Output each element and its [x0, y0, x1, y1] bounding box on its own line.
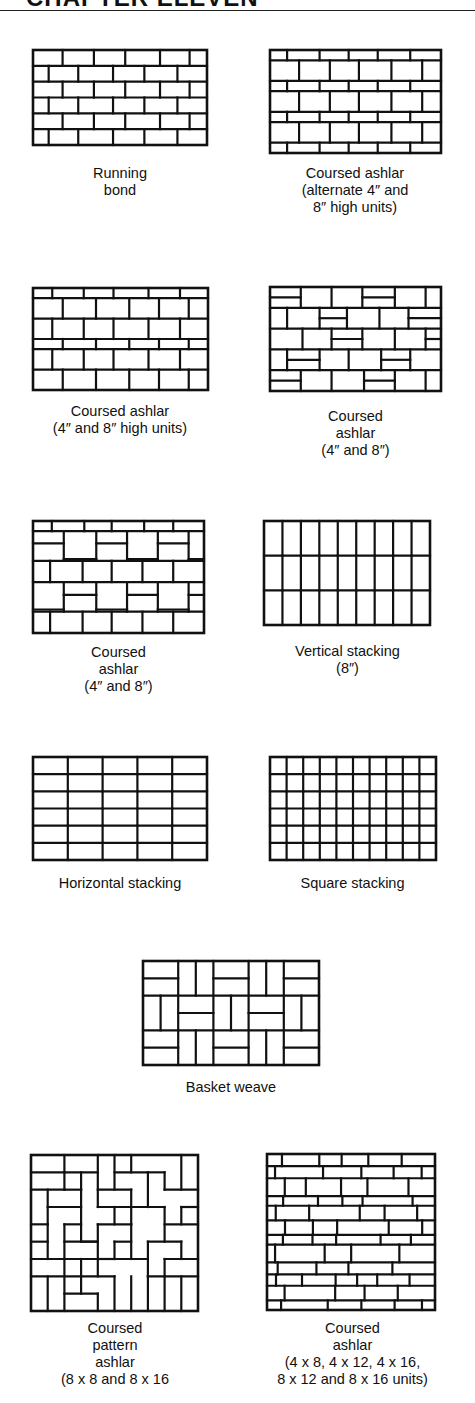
- chapter-title: CHAPTER ELEVEN: [26, 0, 259, 10]
- vertical-stacking-diagram: [264, 521, 430, 625]
- pattern-coursed-pattern-ashlar: [31, 1155, 198, 1311]
- caption-horizontal-stacking: Horizontal stacking: [20, 875, 220, 892]
- pattern-horizontal-stacking: [33, 757, 207, 860]
- caption-running-bond: Running bond: [33, 165, 207, 199]
- pattern-coursed-ashlar-mixed-units: [267, 1154, 435, 1310]
- pattern-coursed-ashlar-4-8-a: [270, 287, 441, 391]
- header-divider: [0, 10, 475, 11]
- square-stacking-diagram: [270, 757, 436, 860]
- pattern-running-bond: [33, 50, 207, 145]
- coursed-ashlar-4-8-a-diagram: [270, 287, 441, 391]
- basket-weave-diagram: [143, 961, 319, 1065]
- coursed-ashlar-mixed-units-diagram: [267, 1154, 435, 1310]
- horizontal-stacking-diagram: [33, 757, 207, 860]
- caption-basket-weave: Basket weave: [143, 1079, 319, 1096]
- running-bond-diagram: [33, 50, 207, 145]
- coursed-ashlar-4-8-b-diagram: [33, 521, 204, 633]
- pattern-coursed-ashlar-4-8-high: [33, 288, 208, 390]
- pattern-vertical-stacking: [264, 521, 430, 625]
- caption-square-stacking: Square stacking: [260, 875, 445, 892]
- pattern-coursed-ashlar-alternate: [270, 50, 441, 153]
- caption-coursed-pattern-ashlar: Coursed pattern ashlar (8 x 8 and 8 x 16: [15, 1320, 215, 1388]
- coursed-ashlar-alternate-diagram: [270, 50, 441, 153]
- caption-coursed-ashlar-4-8-b: Coursed ashlar (4″ and 8″): [33, 644, 204, 695]
- coursed-pattern-ashlar-diagram: [31, 1155, 198, 1311]
- caption-coursed-ashlar-mixed-units: Coursed ashlar (4 x 8, 4 x 12, 4 x 16, 8…: [245, 1320, 460, 1388]
- caption-vertical-stacking: Vertical stacking (8″): [255, 643, 440, 677]
- caption-coursed-ashlar-4-8-high: Coursed ashlar (4″ and 8″ high units): [20, 403, 220, 437]
- pattern-basket-weave: [143, 961, 319, 1065]
- pattern-coursed-ashlar-4-8-b: [33, 521, 204, 633]
- coursed-ashlar-4-8-high-diagram: [33, 288, 208, 390]
- pattern-square-stacking: [270, 757, 436, 860]
- caption-coursed-ashlar-alternate: Coursed ashlar (alternate 4″ and 8″ high…: [255, 165, 455, 216]
- caption-coursed-ashlar-4-8-a: Coursed ashlar (4″ and 8″): [270, 408, 441, 459]
- chapter-header: CHAPTER ELEVEN: [0, 0, 475, 10]
